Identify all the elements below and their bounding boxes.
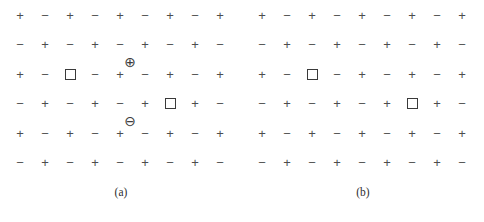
minus-sign: − (426, 122, 448, 144)
plus-sign: + (159, 63, 181, 85)
plus-sign: + (134, 152, 156, 174)
minus-sign: − (184, 122, 206, 144)
plus-sign: + (209, 122, 231, 144)
plus-sign: + (9, 63, 31, 85)
plus-sign: + (109, 4, 131, 26)
minus-sign: − (401, 34, 423, 56)
minus-sign: − (426, 63, 448, 85)
lattice-grid-a: +−+−+−+−+−+−+−+−+−+−−+−+−+−+−+−++−+−+−+−… (0, 0, 242, 180)
minus-sign: − (184, 63, 206, 85)
minus-sign: − (84, 63, 106, 85)
plus-sign: + (209, 4, 231, 26)
plus-sign: + (326, 34, 348, 56)
plus-sign: + (276, 93, 298, 115)
minus-sign: − (326, 63, 348, 85)
minus-sign: − (251, 34, 273, 56)
plus-sign: + (376, 93, 398, 115)
plus-sign: + (184, 93, 206, 115)
plus-sign: + (301, 4, 323, 26)
square-marker (59, 63, 81, 85)
minus-sign: − (84, 4, 106, 26)
minus-sign: − (209, 93, 231, 115)
plus-sign: + (34, 93, 56, 115)
minus-sign: − (134, 4, 156, 26)
minus-sign: − (251, 152, 273, 174)
square-marker (159, 93, 181, 115)
minus-sign: − (59, 34, 81, 56)
plus-sign: + (301, 122, 323, 144)
plus-sign: + (34, 152, 56, 174)
plus-sign: + (209, 63, 231, 85)
minus-sign: − (9, 93, 31, 115)
minus-sign: − (301, 93, 323, 115)
minus-sign: − (326, 122, 348, 144)
minus-sign: − (184, 4, 206, 26)
minus-sign: − (209, 34, 231, 56)
minus-sign: − (34, 63, 56, 85)
caption-panel-a: (a) (0, 186, 242, 198)
plus-sign: + (251, 122, 273, 144)
panel-a: +−+−+−+−+−+−+−+−+−+−−+−+−+−+−+−++−+−+−+−… (0, 0, 242, 180)
minus-sign: − (9, 152, 31, 174)
square-marker (301, 63, 323, 85)
minus-sign: − (9, 34, 31, 56)
minus-sign: − (351, 93, 373, 115)
plus-sign: + (426, 152, 448, 174)
lattice-grid-b: +−+−+−+−+−+−+−+−+−+−−+−+−+−+−+−++−+−+−+−… (242, 0, 484, 180)
minus-sign: − (251, 93, 273, 115)
plus-sign: + (251, 63, 273, 85)
minus-sign: − (376, 122, 398, 144)
plus-sign: + (184, 152, 206, 174)
plus-sign: + (84, 152, 106, 174)
plus-sign: + (426, 93, 448, 115)
minus-sign: − (376, 4, 398, 26)
minus-sign: − (326, 4, 348, 26)
plus-sign: + (159, 122, 181, 144)
minus-sign: − (376, 63, 398, 85)
plus-sign: + (351, 4, 373, 26)
minus-sign: − (159, 152, 181, 174)
plus-sign: + (451, 4, 473, 26)
plus-sign: + (401, 122, 423, 144)
minus-sign: − (276, 122, 298, 144)
minus-sign: − (34, 4, 56, 26)
minus-sign: − (451, 152, 473, 174)
circled-plus-defect-icon: ⊕ (120, 52, 140, 72)
panel-b: +−+−+−+−+−+−+−+−+−+−−+−+−+−+−+−++−+−+−+−… (242, 0, 484, 180)
minus-sign: − (59, 152, 81, 174)
minus-sign: − (351, 152, 373, 174)
minus-sign: − (34, 122, 56, 144)
minus-sign: − (451, 34, 473, 56)
minus-sign: − (276, 63, 298, 85)
minus-sign: − (59, 93, 81, 115)
plus-sign: + (9, 122, 31, 144)
minus-sign: − (426, 4, 448, 26)
plus-sign: + (376, 34, 398, 56)
minus-sign: − (451, 93, 473, 115)
minus-sign: − (109, 152, 131, 174)
minus-sign: − (401, 152, 423, 174)
plus-sign: + (326, 93, 348, 115)
minus-sign: − (301, 34, 323, 56)
plus-sign: + (451, 122, 473, 144)
minus-sign: − (209, 152, 231, 174)
circled-minus-defect-icon: ⊖ (120, 111, 140, 131)
minus-sign: − (276, 4, 298, 26)
square-marker (401, 93, 423, 115)
plus-sign: + (9, 4, 31, 26)
plus-sign: + (34, 34, 56, 56)
plus-sign: + (401, 4, 423, 26)
plus-sign: + (84, 93, 106, 115)
plus-sign: + (351, 63, 373, 85)
plus-sign: + (351, 122, 373, 144)
plus-sign: + (326, 152, 348, 174)
plus-sign: + (59, 4, 81, 26)
plus-sign: + (401, 63, 423, 85)
minus-sign: − (159, 34, 181, 56)
plus-sign: + (426, 34, 448, 56)
plus-sign: + (59, 122, 81, 144)
minus-sign: − (351, 34, 373, 56)
plus-sign: + (276, 34, 298, 56)
plus-sign: + (276, 152, 298, 174)
figure-container: +−+−+−+−+−+−+−+−+−+−−+−+−+−+−+−++−+−+−+−… (0, 0, 484, 222)
